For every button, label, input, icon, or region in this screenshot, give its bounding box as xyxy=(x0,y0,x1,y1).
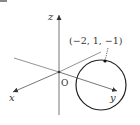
x-axis xyxy=(13,72,59,92)
tangent-point xyxy=(103,59,106,62)
origin-label: O xyxy=(61,78,68,88)
x-axis-negative xyxy=(59,52,101,72)
origin-point xyxy=(58,71,60,73)
z-axis-label: z xyxy=(47,11,54,22)
sphere xyxy=(76,60,126,110)
coordinate-diagram: z O x y (−2, 1, −1) xyxy=(0,0,140,125)
y-axis-negative xyxy=(14,58,59,72)
corner-mark xyxy=(0,0,7,2)
x-axis-label: x xyxy=(9,92,15,103)
leader-line xyxy=(105,48,108,61)
y-axis-label: y xyxy=(109,92,116,103)
point-label: (−2, 1, −1) xyxy=(69,35,123,46)
